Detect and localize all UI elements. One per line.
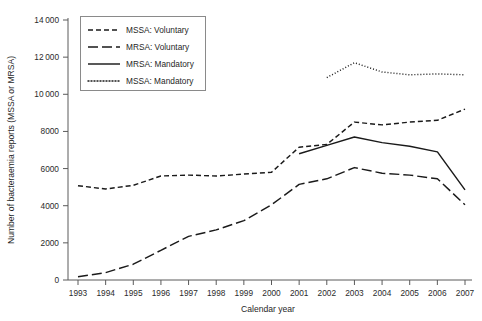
x-tick-label: 2000 — [262, 288, 281, 298]
x-tick-label: 2003 — [345, 288, 364, 298]
x-axis-title: Calendar year — [241, 304, 295, 314]
legend-label-0: MSSA: Voluntary — [126, 25, 190, 35]
bacteraemia-reports-chart: 0200040006000800010 00012 00014 000 1993… — [0, 0, 482, 321]
y-axis-title: Number of bacteraemia reports (MSSA or M… — [6, 56, 16, 244]
x-tick-label: 2001 — [290, 288, 309, 298]
x-tick-label: 2004 — [373, 288, 392, 298]
x-tick-label: 2005 — [400, 288, 419, 298]
y-tick-label: 8000 — [41, 126, 60, 136]
chart-canvas: 0200040006000800010 00012 00014 000 1993… — [0, 0, 482, 321]
x-tick-label: 1997 — [179, 288, 198, 298]
x-tick-label: 1993 — [69, 288, 88, 298]
y-tick-label: 4000 — [41, 201, 60, 211]
x-tick-label: 2006 — [428, 288, 447, 298]
x-tick-label: 1996 — [152, 288, 171, 298]
x-tick-label: 1998 — [207, 288, 226, 298]
y-tick-group: 0200040006000800010 00012 00014 000 — [34, 15, 68, 285]
legend-label-2: MRSA: Mandatory — [126, 59, 195, 69]
x-axis: 1993199419951996199719981999200020012002… — [68, 280, 475, 298]
y-tick-label: 2000 — [41, 238, 60, 248]
y-tick-label: 0 — [54, 275, 59, 285]
x-tick-label: 1999 — [235, 288, 254, 298]
x-tick-label: 1994 — [96, 288, 115, 298]
y-tick-label: 12 000 — [34, 52, 59, 62]
legend: MSSA: VoluntaryMRSA: VoluntaryMRSA: Mand… — [81, 17, 206, 91]
y-tick-label: 6000 — [41, 164, 60, 174]
legend-label-1: MRSA: Voluntary — [126, 42, 190, 52]
x-tick-label: 1995 — [124, 288, 143, 298]
series-line-3 — [327, 63, 465, 78]
x-tick-label: 2007 — [456, 288, 475, 298]
y-tick-label: 10 000 — [34, 89, 59, 99]
y-axis: 0200040006000800010 00012 00014 000 — [34, 15, 68, 285]
y-tick-label: 14 000 — [34, 15, 59, 25]
series-line-0 — [78, 109, 465, 189]
series-group — [78, 63, 465, 277]
x-tick-group: 1993199419951996199719981999200020012002… — [69, 280, 475, 298]
legend-label-3: MSSA: Mandatory — [126, 76, 194, 86]
x-tick-label: 2002 — [318, 288, 337, 298]
